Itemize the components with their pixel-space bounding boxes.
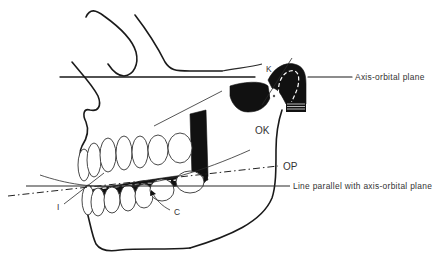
label-I: I [57,202,60,212]
ramus-upper-line [154,91,222,126]
foramen-dot [273,95,275,97]
condyle-base-hatch [286,102,306,112]
skull-jaw-diagram: K Axis-orbital plane OK OP Line parallel… [0,0,443,267]
ramus-solid [230,82,270,112]
label-K: K [266,64,272,74]
orbit-outline [86,11,137,76]
zygomatic-outline [135,15,222,71]
lower-teeth [82,171,204,216]
label-OK: OK [255,125,270,136]
label-axis-orbital-plane: Axis-orbital plane [355,72,425,82]
label-C: C [174,207,180,217]
arch-line [222,64,262,71]
upper-teeth [78,133,192,181]
label-OP: OP [283,161,298,172]
label-line-parallel: Line parallel with axis-orbital plane [293,181,432,191]
